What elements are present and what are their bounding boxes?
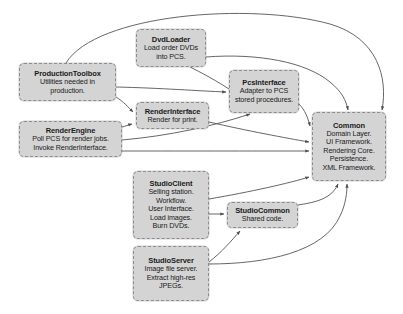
edge-studiocommon-to-common [298, 184, 338, 205]
node-renderinterface[interactable]: RenderInterface Render for print. [136, 102, 209, 129]
node-description: Domain Layer.UI Framework.Rendering Core… [322, 130, 375, 173]
edge-renderinterface-to-common [209, 122, 309, 142]
node-productiontoolbox[interactable]: ProductionToolbox Utilities needed inpro… [19, 63, 116, 101]
node-pcsinterface[interactable]: PcsInterface Adapter to PCSstored proced… [229, 70, 299, 113]
edge-productiontoolbox-to-pcsinterface [116, 87, 226, 92]
node-common[interactable]: Common Domain Layer.UI Framework.Renderi… [312, 112, 386, 181]
node-description: Utilities needed inproduction. [40, 78, 95, 95]
node-description: Selling station.Workflow.User Interface.… [148, 188, 194, 231]
edge-pcsinterface-to-common [299, 104, 310, 126]
node-description: Adapter to PCSstored procedures. [235, 87, 293, 104]
edge-productiontoolbox-to-renderinterface [116, 97, 133, 112]
node-description: Shared code. [242, 215, 284, 224]
node-renderengine[interactable]: RenderEngine Poll PCS for render jobs.In… [19, 121, 122, 157]
edge-studioclient-to-common [209, 177, 309, 199]
node-description: Poll PCS for render jobs.Invoke RenderIn… [32, 135, 109, 152]
node-studioclient[interactable]: StudioClient Selling station.Workflow.Us… [133, 171, 209, 239]
edge-studioserver-to-studiocommon [209, 231, 240, 262]
edge-renderengine-to-renderinterface [122, 124, 132, 127]
node-description: Render for print. [147, 116, 197, 125]
architecture-diagram: DvdLoader Load order DVDsinto PCS. Produ… [0, 0, 403, 314]
node-description: Load order DVDsinto PCS. [144, 44, 198, 61]
node-studiocommon[interactable]: StudioCommon Shared code. [227, 202, 298, 228]
node-description: Image file server.Extract high-resJPEGs. [145, 265, 198, 291]
node-studioserver[interactable]: StudioServer Image file server.Extract h… [133, 246, 209, 301]
node-dvdloader[interactable]: DvdLoader Load order DVDsinto PCS. [136, 29, 206, 67]
